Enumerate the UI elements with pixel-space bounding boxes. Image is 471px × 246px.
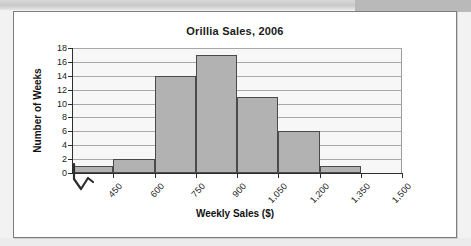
y-axis-title-label: Number of Weeks (32, 68, 43, 152)
x-tick-mark (237, 173, 238, 178)
x-axis-title: Weekly Sales ($) (14, 208, 456, 219)
x-tick-label: 1,350 (349, 181, 372, 205)
x-tick-label: 1,500 (390, 181, 413, 205)
x-tick-mark (320, 173, 321, 178)
y-tick-label: 4 (62, 140, 67, 150)
x-tick-mark (361, 173, 362, 178)
y-tick-label: 2 (62, 154, 67, 164)
gridline (72, 76, 402, 77)
y-tick-label: 16 (57, 57, 67, 67)
scan-artifact-band-bottom (0, 238, 471, 246)
y-tick-label: 6 (62, 126, 67, 136)
axis-break-zigzag-icon (71, 162, 97, 192)
chart-panel: Orillia Sales, 2006 Number of Weeks 0246… (13, 11, 457, 238)
y-tick-label: 8 (62, 112, 67, 122)
x-tick-label: 1,200 (307, 181, 330, 205)
bar (237, 97, 278, 173)
y-tick-label: 12 (57, 85, 67, 95)
plot-area-wrapper: 024681012141618 4506007509001,0501,2001,… (72, 48, 402, 173)
bar (320, 166, 361, 173)
bar (113, 159, 154, 173)
x-tick-label: 750 (189, 181, 207, 199)
x-tick-label: 600 (148, 181, 166, 199)
gridline (72, 48, 402, 49)
y-tick-label: 0 (62, 168, 67, 178)
y-tick-label: 10 (57, 99, 67, 109)
x-tick-label: 900 (230, 181, 248, 199)
bar (278, 131, 319, 173)
bar (196, 55, 237, 173)
y-axis-title: Number of Weeks (30, 48, 44, 173)
y-tick-label: 14 (57, 71, 67, 81)
x-tick-mark (196, 173, 197, 178)
x-tick-label: 1,050 (266, 181, 289, 205)
y-tick-label: 18 (57, 43, 67, 53)
x-tick-mark (155, 173, 156, 178)
bar (155, 76, 196, 173)
y-axis-line (72, 48, 73, 173)
x-tick-mark (113, 173, 114, 178)
gridline (72, 90, 402, 91)
x-tick-mark (278, 173, 279, 178)
chart-title: Orillia Sales, 2006 (14, 25, 456, 37)
x-tick-mark (402, 173, 403, 178)
x-tick-label: 450 (107, 181, 125, 199)
gridline (72, 62, 402, 63)
